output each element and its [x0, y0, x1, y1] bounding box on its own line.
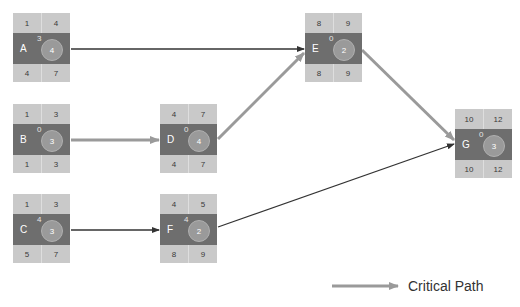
node-g: 10 12 G 0 3 10 12: [455, 109, 512, 178]
early-finish: 12: [483, 109, 512, 129]
arrow-d-to-e: [218, 53, 304, 139]
early-start: 4: [160, 104, 188, 124]
node-f-early-times: 4 5: [160, 194, 217, 214]
slack: 4: [37, 215, 41, 224]
early-finish: 7: [188, 104, 217, 124]
node-c-early-times: 1 3: [13, 194, 70, 214]
late-finish: 9: [188, 245, 217, 263]
node-b-body: B 0 3: [13, 124, 70, 155]
late-start: 8: [305, 64, 333, 82]
late-start: 8: [160, 245, 188, 263]
node-e: 8 9 E 0 2 8 9: [305, 13, 362, 82]
duration-circle: 3: [41, 130, 63, 152]
activity-name: G: [462, 139, 470, 150]
late-finish: 7: [41, 64, 70, 82]
duration-circle: 4: [188, 130, 210, 152]
early-finish: 3: [41, 194, 70, 214]
node-b-late-times: 1 3: [13, 155, 70, 173]
slack: 0: [184, 125, 188, 134]
legend: Critical Path: [404, 276, 483, 296]
legend-label: Critical Path: [408, 278, 483, 294]
node-c-body: C 4 3: [13, 214, 70, 245]
late-start: 4: [13, 64, 41, 82]
node-g-late-times: 10 12: [455, 160, 512, 178]
node-c: 1 3 C 4 3 5 7: [13, 194, 70, 263]
early-start: 1: [13, 13, 41, 33]
node-a-body: A 3 4: [13, 33, 70, 64]
duration-circle: 2: [188, 220, 210, 242]
node-c-late-times: 5 7: [13, 245, 70, 263]
dependency-arrows: [0, 0, 520, 307]
early-start: 1: [13, 194, 41, 214]
node-a-late-times: 4 7: [13, 64, 70, 82]
slack: 0: [479, 130, 483, 139]
node-a: 1 4 A 3 4 4 7: [13, 13, 70, 82]
slack: 3: [37, 34, 41, 43]
node-g-early-times: 10 12: [455, 109, 512, 129]
late-finish: 9: [333, 64, 362, 82]
duration-circle: 2: [333, 39, 355, 61]
early-start: 10: [455, 109, 483, 129]
node-d-body: D 0 4: [160, 124, 217, 155]
node-d-late-times: 4 7: [160, 155, 217, 173]
activity-name: A: [20, 43, 27, 54]
duration-circle: 3: [483, 135, 505, 157]
slack: 0: [329, 34, 333, 43]
late-start: 5: [13, 245, 41, 263]
late-finish: 7: [188, 155, 217, 173]
node-f: 4 5 F 4 2 8 9: [160, 194, 217, 263]
late-finish: 7: [41, 245, 70, 263]
activity-name: E: [312, 43, 319, 54]
late-finish: 12: [483, 160, 512, 178]
early-finish: 9: [333, 13, 362, 33]
node-f-body: F 4 2: [160, 214, 217, 245]
early-start: 1: [13, 104, 41, 124]
node-f-late-times: 8 9: [160, 245, 217, 263]
duration-circle: 3: [41, 220, 63, 242]
node-a-early-times: 1 4: [13, 13, 70, 33]
activity-name: B: [20, 134, 27, 145]
late-finish: 3: [41, 155, 70, 173]
activity-name: C: [20, 224, 27, 235]
arrow-e-to-g: [362, 50, 454, 140]
node-b: 1 3 B 0 3 1 3: [13, 104, 70, 173]
node-e-early-times: 8 9: [305, 13, 362, 33]
early-start: 8: [305, 13, 333, 33]
node-b-early-times: 1 3: [13, 104, 70, 124]
early-start: 4: [160, 194, 188, 214]
arrow-f-to-g: [218, 144, 454, 227]
node-e-late-times: 8 9: [305, 64, 362, 82]
activity-name: F: [167, 224, 173, 235]
activity-name: D: [167, 134, 174, 145]
network-diagram: 1 4 A 3 4 4 7 1 3 B 0 3 1 3 1: [0, 0, 520, 307]
node-d-early-times: 4 7: [160, 104, 217, 124]
node-e-body: E 0 2: [305, 33, 362, 64]
late-start: 4: [160, 155, 188, 173]
early-finish: 3: [41, 104, 70, 124]
early-finish: 4: [41, 13, 70, 33]
slack: 0: [37, 125, 41, 134]
late-start: 10: [455, 160, 483, 178]
early-finish: 5: [188, 194, 217, 214]
node-d: 4 7 D 0 4 4 7: [160, 104, 217, 173]
late-start: 1: [13, 155, 41, 173]
duration-circle: 4: [41, 39, 63, 61]
slack: 4: [184, 215, 188, 224]
node-g-body: G 0 3: [455, 129, 512, 160]
